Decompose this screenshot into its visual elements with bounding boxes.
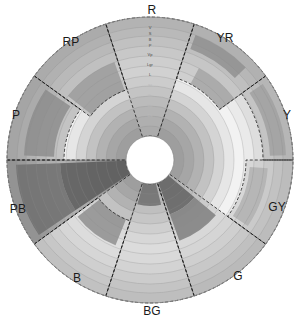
hue-label-BG: BG <box>143 305 161 317</box>
tone-label-P: P <box>149 44 152 48</box>
hue-label-RP: RP <box>62 36 79 48</box>
tone-label-Lgr: Lgr <box>147 63 153 67</box>
tone-label-Gr: Gr <box>148 94 152 98</box>
hue-label-YR: YR <box>216 32 233 44</box>
tone-label-Dp: Dp <box>147 104 152 108</box>
center-hole <box>126 136 174 184</box>
hue-label-PB: PB <box>10 203 26 215</box>
tone-label-Dk: Dk <box>148 114 153 118</box>
polar-chart-canvas <box>0 0 303 322</box>
tone-label-Vp: Vp <box>148 53 153 57</box>
hue-label-Y: Y <box>283 109 291 121</box>
tone-label-L: L <box>149 73 151 77</box>
hue-label-R: R <box>148 4 157 16</box>
tone-label-B: B <box>149 38 152 42</box>
hue-label-G: G <box>233 270 243 282</box>
tone-label-S: S <box>149 32 152 36</box>
hue-label-B: B <box>73 272 81 284</box>
hue-label-P: P <box>12 109 20 121</box>
tone-label-V: V <box>149 26 152 30</box>
hue-label-GY: GY <box>268 201 286 213</box>
polar-chart: RYRYGYGBGBPBPRP VSBPVpLgrLSfGrDpDk <box>0 0 303 322</box>
tone-label-Sf: Sf <box>148 84 152 88</box>
